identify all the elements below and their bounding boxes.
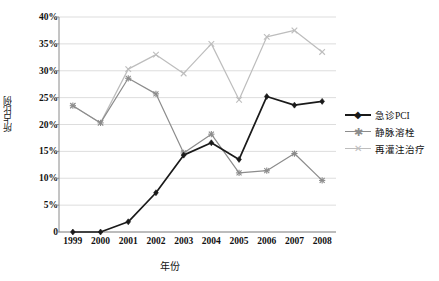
- legend-key-reperfusion: ✕: [345, 143, 371, 155]
- legend-key-pci: ◆: [345, 109, 371, 121]
- legend-label-thrombolysis: 静脉溶栓: [375, 125, 415, 139]
- data-point-marker: [320, 98, 325, 104]
- x-axis-tick-label: 2000: [91, 236, 110, 246]
- series-line-0: [73, 97, 322, 232]
- legend-item-pci: ◆ 急诊PCI: [345, 106, 425, 123]
- x-axis-tick-label: 1999: [63, 236, 82, 246]
- legend-label-pci: 急诊PCI: [375, 108, 410, 122]
- legend-item-thrombolysis: ✱ 静脉溶栓: [345, 123, 425, 140]
- x-axis-tick-label: 2005: [230, 236, 249, 246]
- x-axis-tick-label: 2004: [202, 236, 221, 246]
- x-marker-icon: ✕: [354, 144, 362, 154]
- chart-container: 05%10%15%20%25%30%35%40% 所占比例 年份 ◆ 急诊PCI…: [0, 0, 439, 281]
- diamond-marker-icon: ◆: [354, 110, 362, 120]
- legend-key-thrombolysis: ✱: [345, 126, 371, 138]
- x-axis-tick-label: 2001: [119, 236, 138, 246]
- chart-legend: ◆ 急诊PCI ✱ 静脉溶栓 ✕ 再灌注治疗: [345, 106, 425, 157]
- x-axis-tick-label: 2006: [257, 236, 276, 246]
- data-point-marker: [98, 229, 103, 235]
- data-point-marker: [71, 229, 76, 235]
- series-line-1: [73, 78, 322, 180]
- x-axis-tick-label: 2008: [313, 236, 332, 246]
- legend-item-reperfusion: ✕ 再灌注治疗: [345, 140, 425, 157]
- x-axis-tick-label: 2003: [174, 236, 193, 246]
- x-axis-tick-label: 2007: [285, 236, 304, 246]
- asterisk-marker-icon: ✱: [354, 127, 363, 137]
- x-axis-tick-label: 2002: [146, 236, 165, 246]
- data-point-marker: [209, 140, 214, 146]
- data-point-marker: [292, 102, 297, 108]
- legend-label-reperfusion: 再灌注治疗: [375, 142, 425, 156]
